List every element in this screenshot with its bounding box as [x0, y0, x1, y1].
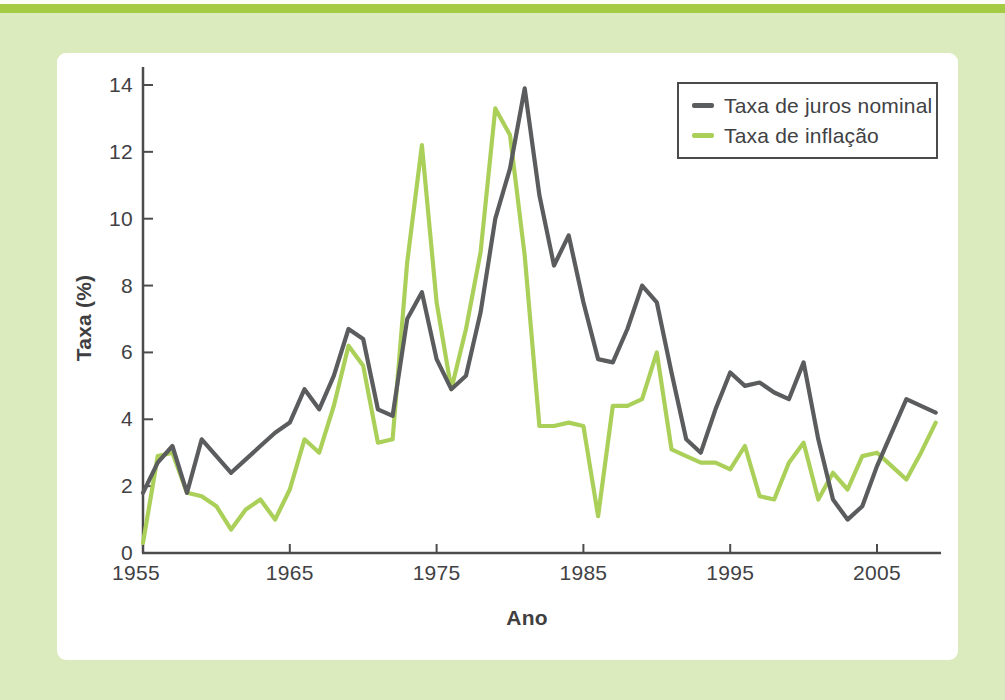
legend-item-nominal-rate: Taxa de juros nominal: [692, 94, 936, 117]
y-tick-label: 8: [73, 273, 133, 297]
y-tick-label: 6: [73, 340, 133, 364]
x-tick-label: 1995: [706, 561, 754, 585]
x-tick-label: 1975: [413, 561, 461, 585]
legend-label-inflation-rate: Taxa de inflação: [724, 124, 879, 147]
legend-label-nominal-rate: Taxa de juros nominal: [724, 94, 932, 117]
x-tick-label: 1985: [559, 561, 607, 585]
x-axis-title: Ano: [506, 606, 547, 630]
page-background: Taxa (%) Ano 02468101214 195519651975198…: [0, 0, 1005, 700]
nominal-rate-line-swatch: [692, 103, 714, 108]
inflation-rate-line: [143, 108, 936, 543]
y-tick-label: 2: [73, 474, 133, 498]
x-tick-label: 2005: [853, 561, 901, 585]
y-tick-label: 12: [73, 139, 133, 163]
x-tick-label: 1965: [266, 561, 314, 585]
legend: Taxa de juros nominal Taxa de inflação: [677, 82, 938, 159]
y-tick-label: 14: [73, 72, 133, 96]
inflation-rate-line-swatch: [692, 133, 714, 138]
x-tick-label: 1955: [112, 561, 160, 585]
legend-item-inflation-rate: Taxa de inflação: [692, 124, 936, 147]
y-tick-label: 4: [73, 407, 133, 431]
y-tick-label: 10: [73, 206, 133, 230]
